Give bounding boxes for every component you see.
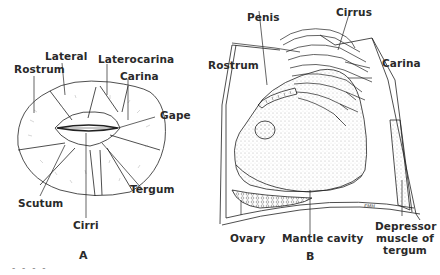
label-depressor-line-2: muscle of — [375, 232, 435, 244]
label-tergum: Tergum — [130, 183, 175, 195]
label-depressor-line-3: tergum — [375, 244, 435, 256]
label-rostrum-a: Rostrum — [14, 63, 65, 75]
label-gape: Gape — [160, 109, 191, 121]
panel-letter-a: A — [79, 249, 88, 262]
caption-fragment: - - - - — [12, 263, 48, 273]
label-cirrus: Cirrus — [336, 6, 372, 18]
label-mantle-cavity: Mantle cavity — [282, 232, 363, 244]
panel-a-shell — [18, 81, 166, 196]
label-laterocarina: Laterocarina — [98, 53, 174, 65]
panel-letter-b: B — [306, 250, 314, 263]
label-carina-b: Carina — [382, 57, 421, 69]
label-lateral: Lateral — [45, 50, 87, 62]
label-depressor-line-1: Depressor — [375, 220, 435, 232]
label-carina-a: Carina — [120, 70, 159, 82]
label-ovary: Ovary — [230, 232, 265, 244]
label-scutum: Scutum — [18, 197, 63, 209]
artist-signature: FMH — [364, 203, 375, 209]
label-depressor-muscle: Depressor muscle of tergum — [375, 220, 435, 256]
label-rostrum-b: Rostrum — [208, 59, 259, 71]
barnacle-anatomy-illustration — [0, 0, 440, 275]
label-cirri: Cirri — [73, 219, 99, 231]
label-penis: Penis — [247, 11, 280, 23]
